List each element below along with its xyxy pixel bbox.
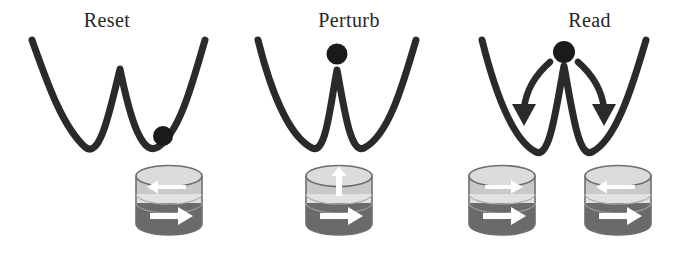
ball-marker xyxy=(153,126,173,146)
panel-read: Read xyxy=(454,0,697,256)
panel-reset: Reset xyxy=(0,0,232,256)
cylinder-top-cap xyxy=(469,166,535,187)
mtj-stack-read-antiparallel xyxy=(582,166,654,240)
ball-marker xyxy=(327,44,348,65)
figure-root: Reset xyxy=(0,0,697,256)
transition-arrow-right xyxy=(578,62,616,126)
tunnel-barrier-band xyxy=(466,194,538,203)
cylinder-top-cap xyxy=(136,166,202,187)
transition-arrow-left xyxy=(512,62,550,126)
panel-perturb: Perturb xyxy=(232,0,454,256)
ball-marker xyxy=(553,41,575,63)
tunnel-barrier-band xyxy=(133,194,205,203)
potential-well-curve xyxy=(32,40,205,149)
mtj-stack-read-parallel xyxy=(466,166,538,240)
tunnel-barrier-band xyxy=(582,194,654,203)
cylinder-top-cap xyxy=(585,166,651,187)
mtj-stack-reset xyxy=(133,166,205,240)
mtj-stack-perturb xyxy=(303,166,375,240)
